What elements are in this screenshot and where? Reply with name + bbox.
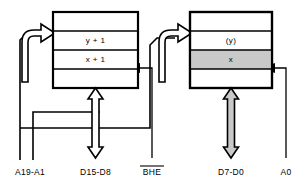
bus-label-bhe-group: BHE bbox=[140, 166, 164, 177]
data-bus-d7-d0-arrow bbox=[224, 88, 239, 158]
low-bank-block: (y) x bbox=[190, 12, 272, 88]
address-arrow-into-high-bank bbox=[22, 24, 55, 82]
bus-label-d7-d0: D7-D0 bbox=[218, 167, 244, 177]
low-bank-row-2-label: x bbox=[229, 55, 233, 64]
bus-label-bhe: BHE bbox=[143, 167, 161, 177]
low-bank-row-1-label: (y) bbox=[226, 36, 237, 45]
memory-bank-diagram: y + 1 x + 1 (y) x A19-A1 bbox=[0, 0, 300, 183]
diagram-canvas: y + 1 x + 1 (y) x A19-A1 bbox=[0, 0, 300, 183]
address-arrow-into-low-bank bbox=[159, 24, 192, 82]
high-bank-row-2-label: x + 1 bbox=[86, 55, 106, 64]
high-bank-block: y + 1 x + 1 bbox=[53, 12, 138, 88]
high-bank-row-1-label: y + 1 bbox=[86, 36, 106, 45]
bus-label-a0: A0 bbox=[281, 167, 292, 177]
bus-label-d15-d8: D15-D8 bbox=[80, 167, 111, 177]
bus-label-a19-a1: A19-A1 bbox=[15, 167, 45, 177]
data-bus-d15-d8-arrow bbox=[88, 88, 103, 158]
